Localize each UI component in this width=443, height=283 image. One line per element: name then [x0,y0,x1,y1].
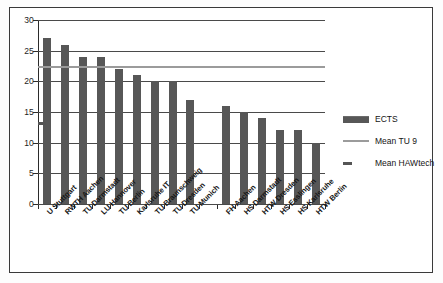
x-axis-tick-mark [217,205,218,209]
mean-tu9-line [38,66,325,68]
legend-item[interactable]: Mean HAWtech [343,152,433,174]
gridline [38,51,325,52]
chart-legend: ECTSMean TU 9Mean HAWtech [343,108,433,174]
bar [151,81,159,204]
chart-figure: 051015202530 U StuttgartRWTH AachenTU Da… [0,0,443,283]
legend-label: Mean HAWtech [375,158,434,168]
x-axis-tick-mark [38,205,39,209]
legend-swatch-dash-icon [343,156,369,170]
legend-swatch-bar-icon [343,112,369,126]
legend-label: Mean TU 9 [375,136,417,146]
legend-item[interactable]: ECTS [343,108,433,130]
plot-area [38,20,325,204]
legend-swatch-line-icon [343,134,369,148]
bar [79,57,87,204]
mean-hawtech-line [38,122,325,125]
bar [222,106,230,204]
legend-label: ECTS [375,114,398,124]
gridline [38,20,325,21]
legend-item[interactable]: Mean TU 9 [343,130,433,152]
